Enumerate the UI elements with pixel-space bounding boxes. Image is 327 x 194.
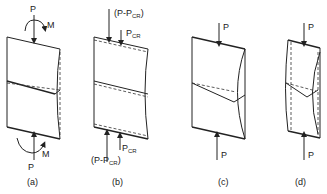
label-bottom-load-left: (P-PCR) — [91, 155, 121, 166]
caption-c: (c) — [218, 177, 229, 187]
label-top-load: P — [308, 22, 314, 32]
label-bottom-load-right: PCR — [122, 143, 137, 154]
panel-d: P P (d) — [286, 22, 321, 187]
buckling-diagram: P M P M (a) (P-PCR) PCR (P-PCR) PCR (b) — [0, 0, 327, 194]
panel-a: P M P M (a) — [7, 4, 60, 187]
label-top-load: P — [223, 22, 229, 32]
label-top-load: P — [30, 4, 36, 14]
label-bottom-moment: M — [42, 149, 50, 159]
label-bottom-load: P — [221, 150, 227, 160]
caption-b: (b) — [112, 177, 123, 187]
caption-a: (a) — [27, 177, 38, 187]
panel-b: (P-PCR) PCR (P-PCR) PCR (b) — [91, 8, 148, 187]
label-bottom-load: P — [28, 162, 34, 172]
top-moment-arrow — [25, 20, 45, 31]
label-top-moment: M — [47, 20, 55, 30]
bottom-moment-arrow — [17, 138, 44, 153]
caption-d: (d) — [295, 177, 306, 187]
label-bottom-load: P — [308, 150, 314, 160]
panel-c: P P (c) — [192, 22, 245, 187]
label-top-load-left: (P-PCR) — [114, 8, 144, 19]
label-top-load-right: PCR — [126, 28, 141, 39]
